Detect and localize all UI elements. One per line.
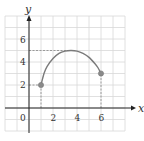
y-tick-4: 4 xyxy=(20,57,26,67)
y-tick-6: 6 xyxy=(20,35,26,45)
endpoint-dot xyxy=(98,71,103,76)
x-tick-6: 6 xyxy=(99,113,105,123)
x-tick-4: 4 xyxy=(75,113,81,123)
origin-label: 0 xyxy=(20,113,26,123)
function-graph: x y 0 2 4 6 2 4 6 xyxy=(0,0,144,141)
x-axis-label: x xyxy=(138,102,144,115)
y-tick-2: 2 xyxy=(20,80,26,90)
function-curve xyxy=(41,51,101,86)
x-tick-2: 2 xyxy=(51,113,57,123)
x-axis-arrow-icon xyxy=(131,106,136,111)
endpoint-dot xyxy=(38,82,43,87)
y-axis-label: y xyxy=(24,3,32,16)
